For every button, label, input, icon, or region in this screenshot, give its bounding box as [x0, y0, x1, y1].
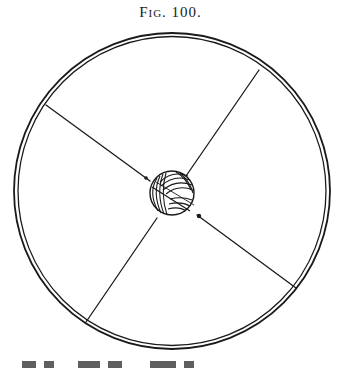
spoke-upper-left: [46, 105, 150, 181]
spoke-lower-right: [197, 215, 296, 288]
string-ball-hub: [150, 171, 194, 215]
spoke-upper-right: [186, 70, 259, 176]
cutoff-caption-text: [22, 361, 222, 368]
wheel-diagram: [0, 0, 341, 368]
spoke-lower-left: [86, 218, 157, 322]
